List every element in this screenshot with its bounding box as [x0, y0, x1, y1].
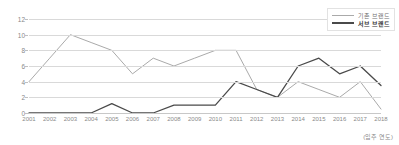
- x-tick-label-2011: 2011: [230, 116, 243, 122]
- gridline-8: [29, 50, 381, 51]
- y-tick-mark-8: [25, 50, 28, 51]
- x-tick-label-2003: 2003: [64, 116, 77, 122]
- x-tick-label-2010: 2010: [209, 116, 222, 122]
- gridline-10: [29, 35, 381, 36]
- x-tick-label-2015: 2015: [312, 116, 325, 122]
- x-tick-label-2013: 2013: [271, 116, 284, 122]
- x-tick-label-2012: 2012: [250, 116, 263, 122]
- gridline-4: [29, 82, 381, 83]
- gridline-6: [29, 66, 381, 67]
- x-tick-label-2005: 2005: [105, 116, 118, 122]
- legend: 기존 브랜드 서브 브랜드: [327, 8, 395, 31]
- axis-note: (입주 연도): [363, 132, 393, 141]
- y-tick-label-4: 4: [0, 82, 25, 83]
- y-tick-label-2: 2: [0, 97, 25, 98]
- gridline-2: [29, 97, 381, 98]
- x-tick-label-2017: 2017: [354, 116, 367, 122]
- legend-swatch-existing-brand: [332, 15, 354, 16]
- legend-item-sub-brand: 서브 브랜드: [332, 19, 390, 27]
- line-chart: 024681012 200120022003200420052006200720…: [0, 0, 399, 145]
- y-tick-mark-12: [25, 19, 28, 20]
- legend-label-sub-brand: 서브 브랜드: [358, 19, 390, 28]
- y-tick-mark-2: [25, 97, 28, 98]
- y-tick-mark-6: [25, 66, 28, 67]
- x-tick-label-2007: 2007: [147, 116, 160, 122]
- y-tick-label-6: 6: [0, 66, 25, 67]
- x-tick-label-2008: 2008: [167, 116, 180, 122]
- x-tick-label-2002: 2002: [43, 116, 56, 122]
- x-tick-label-2001: 2001: [22, 116, 35, 122]
- gridline-0: [29, 113, 381, 114]
- x-tick-label-2006: 2006: [126, 116, 139, 122]
- y-tick-label-8: 8: [0, 50, 25, 51]
- y-tick-label-10: 10: [0, 35, 25, 36]
- y-tick-label-0: 0: [0, 113, 25, 114]
- x-tick-label-2004: 2004: [84, 116, 97, 122]
- y-tick-label-12: 12: [0, 19, 25, 20]
- y-tick-mark-0: [25, 113, 28, 114]
- legend-swatch-sub-brand: [332, 22, 354, 24]
- x-tick-label-2009: 2009: [188, 116, 201, 122]
- plot-area: [29, 19, 381, 113]
- x-tick-label-2016: 2016: [333, 116, 346, 122]
- y-tick-mark-10: [25, 35, 28, 36]
- x-tick-label-2018: 2018: [374, 116, 387, 122]
- x-tick-label-2014: 2014: [291, 116, 304, 122]
- y-tick-mark-4: [25, 82, 28, 83]
